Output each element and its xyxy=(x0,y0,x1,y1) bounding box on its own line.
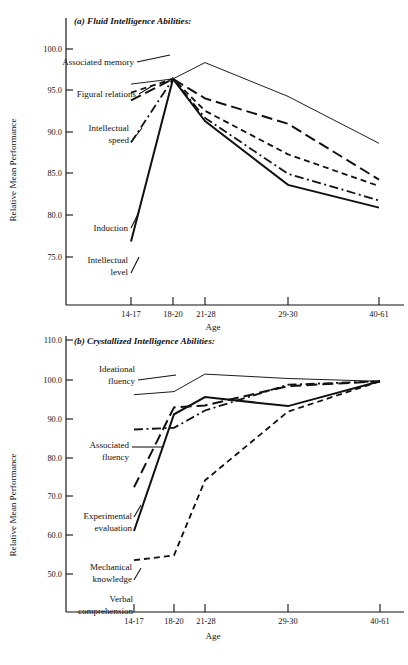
series-line-mechanical-knowledge xyxy=(134,381,380,531)
x-axis-title-b: Age xyxy=(206,631,221,641)
y-ticks-b: 110.0 100.0 90.0 80.0 70.0 60.0 50.0 xyxy=(43,336,73,579)
y-tick-label: 85.0 xyxy=(47,169,62,178)
chart-panel-a: Relative Mean Performance (a) Fluid Inte… xyxy=(0,0,408,332)
y-tick-label: 90.0 xyxy=(47,128,62,137)
series-line-associated-fluency xyxy=(134,381,380,487)
x-tick-label: 18-20 xyxy=(163,310,182,319)
y-tick-label: 80.0 xyxy=(47,211,62,220)
x-tick-label: 29-30 xyxy=(278,617,297,626)
series-label-ideational-fluency-l2: fluency xyxy=(108,376,135,386)
y-tick-label: 70.0 xyxy=(47,492,62,501)
series-label-mechanical-knowledge-l1: Mechanical xyxy=(90,562,132,572)
series-label-intellectual-level-l1: Intellectual xyxy=(88,255,129,265)
series-label-associated-memory: Associated memory xyxy=(62,57,134,67)
series-line-intellectual-level xyxy=(131,79,379,242)
x-tick-label: 21-28 xyxy=(196,310,215,319)
y-ticks-a: 100.0 95.0 90.0 85.0 80.0 75.0 xyxy=(43,45,73,262)
x-tick-label: 18-20 xyxy=(164,617,183,626)
series-label-intellectual-speed-l1: Intellectual xyxy=(89,123,130,133)
series-label-experimental-evaluation-l1: Experimental xyxy=(84,511,133,521)
series-line-associated-memory xyxy=(131,63,379,144)
series-group-b xyxy=(134,374,380,560)
x-tick-label: 14-17 xyxy=(121,310,140,319)
y-tick-label: 80.0 xyxy=(47,454,62,463)
series-label-verbal-comprehension-l1: Verbal xyxy=(110,594,134,604)
series-label-induction: Induction xyxy=(94,223,129,233)
y-axis-title-a: Relative Mean Performance xyxy=(8,118,18,221)
x-tick-label: 40-61 xyxy=(369,310,388,319)
annotations-b: Ideational fluency Associated fluency Ex… xyxy=(78,364,176,616)
y-tick-label: 90.0 xyxy=(47,415,62,424)
x-ticks-a: 14-17 18-20 21-28 29-30 40-61 xyxy=(121,297,388,319)
x-tick-label: 21-28 xyxy=(196,617,215,626)
series-label-associated-fluency-l2: fluency xyxy=(102,452,129,462)
y-axis-title-b: Relative Mean Performance xyxy=(8,453,18,556)
y-tick-label: 50.0 xyxy=(47,570,62,579)
x-tick-label: 14-17 xyxy=(124,617,143,626)
y-tick-label: 100.0 xyxy=(43,376,62,385)
series-label-ideational-fluency-l1: Ideational xyxy=(99,364,135,374)
panel-title-a: (a) Fluid Intelligence Abilities: xyxy=(74,16,191,26)
x-tick-label: 29-30 xyxy=(278,310,297,319)
series-label-figural-relations: Figural relations xyxy=(77,89,137,99)
series-label-intellectual-speed-l2: speed xyxy=(109,135,130,145)
series-label-experimental-evaluation-l2: evaluation xyxy=(95,523,133,533)
y-tick-label: 100.0 xyxy=(43,45,62,54)
series-label-associated-fluency-l1: Associated xyxy=(90,440,130,450)
series-label-mechanical-knowledge-l2: knowledge xyxy=(93,574,133,584)
series-group-a xyxy=(131,63,379,242)
chart-b-svg: Relative Mean Performance (b) Crystalliz… xyxy=(0,330,408,665)
chart-a-svg: Relative Mean Performance (a) Fluid Inte… xyxy=(0,0,408,332)
series-label-intellectual-level-l2: level xyxy=(111,267,129,277)
y-tick-label: 95.0 xyxy=(47,86,62,95)
y-tick-label: 75.0 xyxy=(47,253,62,262)
y-tick-label: 60.0 xyxy=(47,531,62,540)
series-line-verbal-comprehension xyxy=(134,381,380,560)
panel-title-b: (b) Crystallized Intelligence Abilities: xyxy=(74,336,215,346)
x-ticks-b: 14-17 18-20 21-28 29-30 40-61 xyxy=(124,604,389,626)
chart-panel-b: Relative Mean Performance (b) Crystalliz… xyxy=(0,330,408,665)
series-label-verbal-comprehension-l2: comprehension xyxy=(78,606,133,616)
y-tick-label: 110.0 xyxy=(44,336,62,345)
x-tick-label: 40-61 xyxy=(370,617,389,626)
